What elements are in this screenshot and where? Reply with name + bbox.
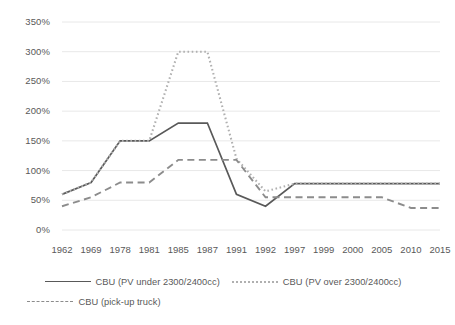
legend-label-pickup-truck: CBU (pick-up truck) (78, 297, 160, 307)
y-tick-label: 150% (4, 136, 50, 146)
legend-label-pv-under: CBU (PV under 2300/2400cc) (96, 277, 220, 287)
legend-item-pv-over[interactable]: CBU (PV over 2300/2400cc) (232, 277, 402, 287)
legend-swatch-dotted-icon (232, 278, 278, 286)
legend-swatch-dashed-icon (27, 298, 73, 306)
series-line-0 (62, 123, 440, 206)
plot-area (0, 0, 446, 270)
chart-canvas (0, 0, 446, 270)
legend-item-pickup-truck[interactable]: CBU (pick-up truck) (27, 297, 160, 307)
legend-item-pv-under[interactable]: CBU (PV under 2300/2400cc) (45, 277, 220, 287)
chart-legend: CBU (PV under 2300/2400cc) CBU (PV over … (0, 272, 446, 312)
y-tick-label: 200% (4, 106, 50, 116)
y-tick-label: 350% (4, 17, 50, 27)
x-tick-label: 2015 (423, 244, 455, 255)
legend-row-secondary: CBU (pick-up truck) (0, 292, 446, 312)
legend-swatch-solid-icon (45, 278, 91, 286)
series-line-1 (62, 52, 440, 195)
y-tick-label: 300% (4, 47, 50, 57)
y-tick-label: 0% (4, 225, 50, 235)
legend-label-pv-over: CBU (PV over 2300/2400cc) (283, 277, 402, 287)
legend-row-primary: CBU (PV under 2300/2400cc) CBU (PV over … (0, 272, 446, 292)
y-tick-label: 100% (4, 166, 50, 176)
y-tick-label: 250% (4, 76, 50, 86)
y-tick-label: 50% (4, 195, 50, 205)
